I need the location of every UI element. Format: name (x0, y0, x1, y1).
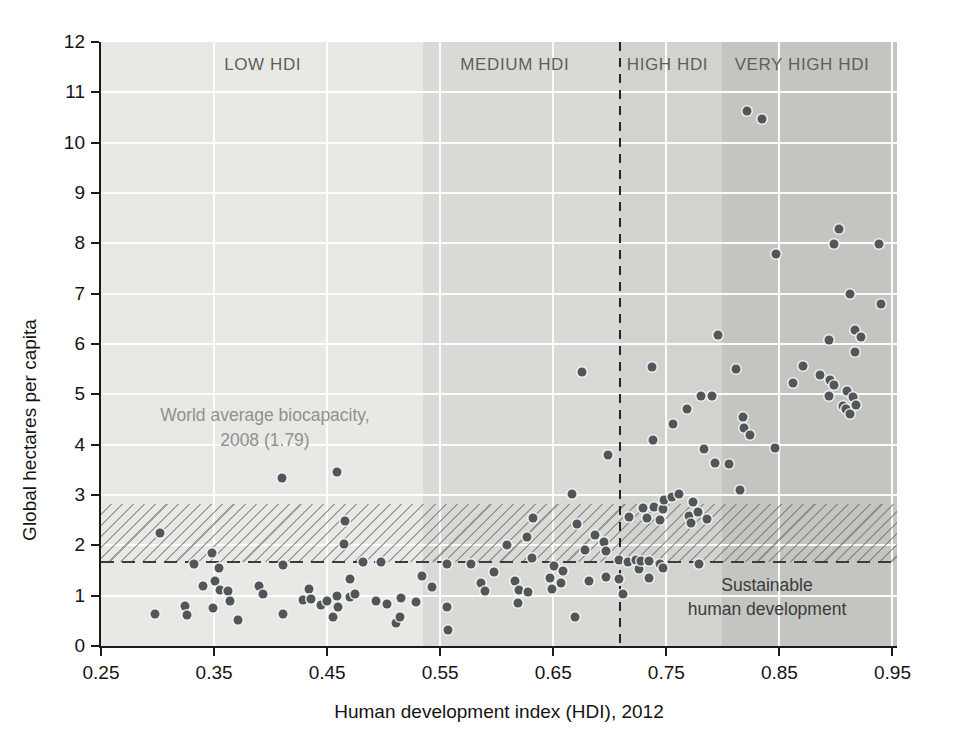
data-point (333, 592, 342, 601)
data-point (689, 498, 698, 507)
y-axis-tick (91, 393, 99, 395)
y-tick-label: 0 (74, 635, 85, 657)
data-point (714, 330, 723, 339)
data-point (788, 378, 797, 387)
data-point (523, 533, 532, 542)
data-point (816, 371, 825, 380)
data-point (359, 558, 368, 567)
data-point (674, 489, 683, 498)
data-point (625, 512, 634, 521)
data-point (742, 107, 751, 116)
data-point (198, 581, 207, 590)
data-point (648, 435, 657, 444)
x-tick-label: 0.65 (535, 662, 572, 684)
data-point (189, 560, 198, 569)
y-tick-label: 1 (74, 585, 85, 607)
data-point (835, 225, 844, 234)
data-point (829, 380, 838, 389)
data-point (645, 557, 654, 566)
data-point (341, 516, 350, 525)
x-axis-tick (439, 648, 441, 656)
data-point (603, 450, 612, 459)
data-point (845, 409, 854, 418)
data-point (307, 595, 316, 604)
region-label-low-hdi: LOW HDI (224, 55, 301, 75)
data-point (568, 489, 577, 498)
sustainable-development-annotation-line1: Sustainable (688, 573, 847, 597)
data-point (545, 573, 554, 582)
world-biocapacity-annotation: World average biocapacity, 2008 (1.79) (160, 403, 369, 453)
data-point (442, 560, 451, 569)
data-point (351, 589, 360, 598)
data-point (333, 467, 342, 476)
data-point (573, 519, 582, 528)
data-point (208, 604, 217, 613)
data-point (735, 485, 744, 494)
x-tick-label: 0.25 (83, 662, 120, 684)
data-point (214, 564, 223, 573)
data-point (557, 578, 566, 587)
data-point (694, 507, 703, 516)
data-point (710, 458, 719, 467)
data-point (614, 556, 623, 565)
y-axis-tick (91, 293, 99, 295)
data-point (739, 412, 748, 421)
data-point (669, 419, 678, 428)
x-tick-label: 0.35 (196, 662, 233, 684)
x-axis-tick (778, 648, 780, 656)
x-axis-tick (891, 648, 893, 656)
x-tick-label: 0.75 (648, 662, 685, 684)
data-point (577, 367, 586, 376)
y-axis-tick (91, 41, 99, 43)
data-point (758, 114, 767, 123)
x-axis-title: Human development index (HDI), 2012 (334, 701, 664, 723)
y-axis-tick (91, 343, 99, 345)
y-tick-label: 9 (74, 182, 85, 204)
data-point (371, 596, 380, 605)
data-point (514, 598, 523, 607)
data-point (635, 565, 644, 574)
data-point (600, 537, 609, 546)
world-biocapacity-annotation-line2: 2008 (1.79) (160, 428, 369, 453)
y-axis-title: Global hectares per capita (19, 319, 41, 541)
data-point (687, 518, 696, 527)
y-tick-label: 11 (65, 81, 85, 103)
data-point (279, 610, 288, 619)
data-point (602, 573, 611, 582)
y-axis-tick (91, 544, 99, 546)
y-tick-label: 6 (74, 333, 85, 355)
y-tick-label: 10 (64, 132, 85, 154)
data-point (155, 528, 164, 537)
data-point (466, 560, 475, 569)
data-point (874, 239, 883, 248)
data-point (559, 566, 568, 575)
data-point (619, 590, 628, 599)
data-point (418, 572, 427, 581)
data-point (442, 602, 451, 611)
data-point (877, 299, 886, 308)
y-axis-tick (91, 192, 99, 194)
x-axis-tick (100, 648, 102, 656)
x-axis-tick (665, 648, 667, 656)
data-point (258, 590, 267, 599)
data-point (703, 514, 712, 523)
data-point (223, 586, 232, 595)
data-point (182, 610, 191, 619)
data-point (527, 553, 536, 562)
data-point (770, 443, 779, 452)
data-point (490, 568, 499, 577)
data-point (655, 515, 664, 524)
data-point (412, 597, 421, 606)
data-point (550, 561, 559, 570)
data-point (732, 364, 741, 373)
x-tick-label: 0.95 (874, 662, 911, 684)
data-point (707, 391, 716, 400)
data-point (585, 577, 594, 586)
y-tick-label: 5 (74, 383, 85, 405)
data-point (845, 290, 854, 299)
y-tick-label: 2 (74, 534, 85, 556)
y-tick-label: 7 (74, 283, 85, 305)
region-label-very-high-hdi: VERY HIGH HDI (735, 55, 870, 75)
y-axis-tick (91, 242, 99, 244)
data-point (396, 593, 405, 602)
